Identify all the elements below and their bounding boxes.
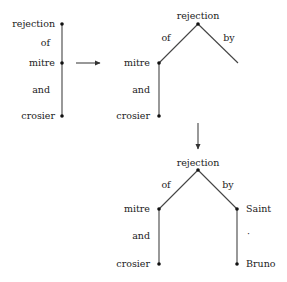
stage1-mid-node	[60, 61, 64, 65]
stage2-left-edge	[159, 24, 198, 63]
stage2-left-rel-label: and	[132, 84, 150, 95]
stage2-tree: rejection of by mitre and crosier	[116, 10, 238, 121]
stage1-leaf-label: crosier	[21, 110, 55, 121]
stage3-right-rel-label: ·	[247, 228, 250, 239]
stage2-head-label: rejection	[177, 10, 220, 21]
stage2-right-edge	[198, 24, 238, 63]
stage1-mid-label: mitre	[29, 57, 55, 68]
stage1-head-label: rejection	[12, 18, 55, 29]
diagram-canvas: rejection of mitre and crosier rejection…	[0, 0, 287, 282]
stage3-left-mid-label: mitre	[124, 203, 150, 214]
stage3-left-rel-label: and	[132, 230, 150, 241]
stage3-right-mid-label: Saint	[246, 203, 271, 214]
stage1-rel2-label: and	[32, 84, 50, 95]
stage3-right-mid-node	[235, 207, 239, 211]
stage2-left-mid-label: mitre	[124, 57, 150, 68]
stage3-tree: rejection of by mitre and crosier Saint …	[116, 157, 275, 269]
stage1-leaf-node	[60, 114, 64, 118]
stage1-tree: rejection of mitre and crosier	[12, 18, 64, 121]
stage3-left-leaf-node	[157, 262, 161, 266]
stage3-right-leaf-node	[235, 262, 239, 266]
stage2-left-leaf-node	[157, 114, 161, 118]
stage3-left-mid-node	[157, 207, 161, 211]
stage3-right-leaf-label: Bruno	[246, 258, 276, 269]
stage3-head-label: rejection	[177, 157, 220, 168]
stage1-rel1-label: of	[41, 37, 52, 48]
stage1-head-node	[60, 22, 64, 26]
stage3-rel-left-label: of	[161, 179, 172, 190]
stage3-head-node	[196, 168, 200, 172]
stage3-rel-right-label: by	[222, 179, 234, 190]
stage2-left-leaf-label: crosier	[116, 110, 150, 121]
stage3-left-leaf-label: crosier	[116, 258, 150, 269]
stage2-left-mid-node	[157, 61, 161, 65]
stage2-rel-right-label: by	[223, 32, 235, 43]
stage2-rel-left-label: of	[161, 32, 172, 43]
stage2-head-node	[196, 22, 200, 26]
